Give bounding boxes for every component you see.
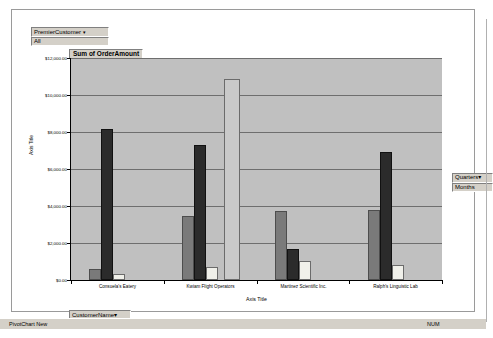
x-axis-category-label: Consuela's Eatery bbox=[71, 284, 164, 290]
bar[interactable] bbox=[194, 145, 206, 280]
bar[interactable] bbox=[380, 152, 392, 280]
x-axis-category-label: Martinez Scientific Inc. bbox=[257, 284, 350, 290]
chart-plot-region: Sum of OrderAmount Axis Title $12,000.00… bbox=[31, 49, 451, 307]
x-axis-tick-mark bbox=[442, 280, 443, 284]
y-axis-tick-label: $0.00 bbox=[31, 278, 67, 283]
page-filter-field-label: PremierCustomer bbox=[34, 29, 81, 35]
bar[interactable] bbox=[392, 265, 404, 280]
column-filter-field-label: Quarters bbox=[455, 174, 478, 180]
bar[interactable] bbox=[206, 267, 218, 280]
chevron-down-icon: ▾ bbox=[83, 29, 86, 35]
gridline bbox=[71, 58, 442, 59]
x-axis-category-label: Ralph's Linguistic Lab bbox=[349, 284, 442, 290]
y-axis-title: Axis Title bbox=[28, 135, 34, 155]
y-axis-tick-label: $10,000.00 bbox=[31, 93, 67, 98]
y-axis-tick-label: $2,000.00 bbox=[31, 241, 67, 246]
bar[interactable] bbox=[101, 129, 113, 280]
y-axis-tick-label: $12,000.00 bbox=[31, 56, 67, 61]
y-axis-tick-label: $6,000.00 bbox=[31, 167, 67, 172]
status-bar: PivotChart New NUM bbox=[0, 318, 486, 329]
page-filter-field-button[interactable]: PremierCustomer▾ bbox=[31, 27, 109, 37]
x-axis-category-label: Kwiam Flight Operators bbox=[164, 284, 257, 290]
gridline bbox=[71, 132, 442, 133]
right-edge-divider bbox=[486, 19, 487, 322]
x-axis-tick-mark bbox=[71, 280, 72, 284]
bar[interactable] bbox=[287, 249, 299, 280]
bar[interactable] bbox=[224, 79, 240, 280]
bar[interactable] bbox=[113, 274, 125, 280]
gridline bbox=[71, 95, 442, 96]
y-axis-tick-label: $4,000.00 bbox=[31, 204, 67, 209]
window-bottom-filler bbox=[0, 329, 486, 338]
bar[interactable] bbox=[368, 210, 380, 280]
page-filter-value[interactable]: All bbox=[31, 37, 109, 46]
status-bar-num-indicator: NUM bbox=[427, 320, 440, 328]
x-axis-title: Axis Title bbox=[71, 296, 442, 302]
status-bar-text: PivotChart New bbox=[9, 320, 47, 328]
bar[interactable] bbox=[299, 261, 311, 280]
bar[interactable] bbox=[182, 216, 194, 280]
chart-document-frame: PremierCustomer▾ All Sum of OrderAmount … bbox=[11, 9, 475, 312]
chevron-down-icon: ▾ bbox=[478, 174, 481, 180]
bar[interactable] bbox=[89, 269, 101, 280]
y-axis-tick-label: $8,000.00 bbox=[31, 130, 67, 135]
bar[interactable] bbox=[275, 211, 287, 280]
